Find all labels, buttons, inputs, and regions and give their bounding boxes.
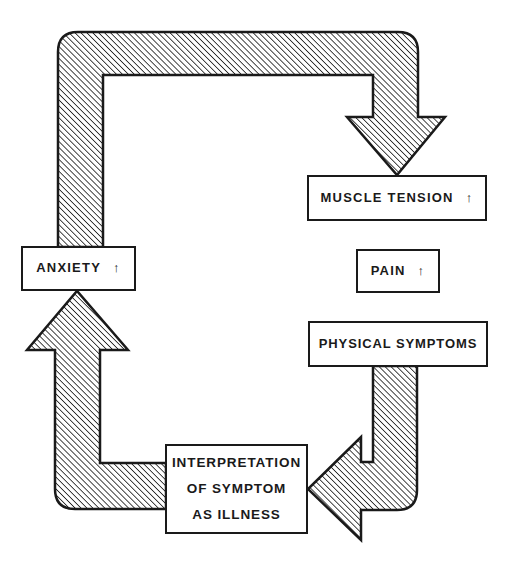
arrow-physical-symptoms-to-interpretation	[308, 366, 417, 540]
increase-arrow-icon: ↑	[113, 258, 121, 278]
node-anxiety: ANXIETY ↑	[21, 246, 136, 291]
node-interpretation-line-1: INTERPRETATION	[172, 450, 301, 476]
node-interpretation-line-2: OF SYMPTOM	[187, 476, 287, 502]
node-physical-symptoms: PHYSICAL SYMPTOMS	[308, 321, 488, 367]
node-muscle-tension: MUSCLE TENSION ↑	[307, 175, 487, 221]
node-physical-symptoms-label: PHYSICAL SYMPTOMS	[319, 334, 478, 354]
increase-arrow-icon: ↑	[466, 188, 474, 208]
node-interpretation: INTERPRETATION OF SYMPTOM AS ILLNESS	[165, 444, 308, 534]
node-anxiety-label: ANXIETY	[36, 258, 101, 278]
node-pain: PAIN ↑	[356, 249, 440, 293]
arrow-interpretation-to-anxiety	[27, 291, 166, 509]
node-muscle-tension-label: MUSCLE TENSION	[321, 188, 454, 208]
increase-arrow-icon: ↑	[418, 261, 426, 281]
node-pain-label: PAIN	[371, 261, 406, 281]
node-interpretation-line-3: AS ILLNESS	[192, 502, 281, 528]
